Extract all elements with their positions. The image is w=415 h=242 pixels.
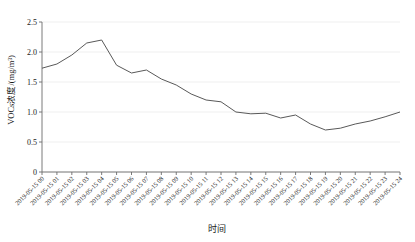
x-axis-label-container: 时间 xyxy=(0,222,415,235)
y-tick-label: 2.5 xyxy=(27,18,37,27)
y-tick-label: 0.5 xyxy=(27,138,37,147)
y-tick-label: 2.0 xyxy=(27,48,37,57)
y-tick-label: 1.5 xyxy=(27,78,37,87)
chart-figure: VOCs浓度/(mg/m³) 00.51.01.52.02.52019-05-1… xyxy=(0,0,415,242)
y-tick-label: 0 xyxy=(33,168,37,177)
chart-plot-area: 00.51.01.52.02.52019-05-15 002019-05-15 … xyxy=(0,0,415,242)
y-axis-label: VOCs浓度/(mg/m³) xyxy=(4,55,16,125)
y-axis-label-container: VOCs浓度/(mg/m³) xyxy=(0,0,20,180)
data-series-line xyxy=(42,40,400,130)
x-axis-label: 时间 xyxy=(190,222,226,235)
y-tick-label: 1.0 xyxy=(27,108,37,117)
